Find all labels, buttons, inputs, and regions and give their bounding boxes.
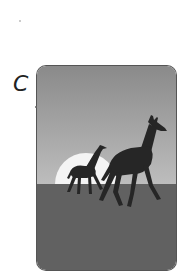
option-label: C: [13, 73, 28, 95]
image-card[interactable]: [37, 66, 176, 270]
ground: [37, 184, 176, 270]
speck: [35, 106, 37, 108]
speck: [19, 20, 21, 22]
giraffe-sunset-illustration: [37, 66, 176, 270]
